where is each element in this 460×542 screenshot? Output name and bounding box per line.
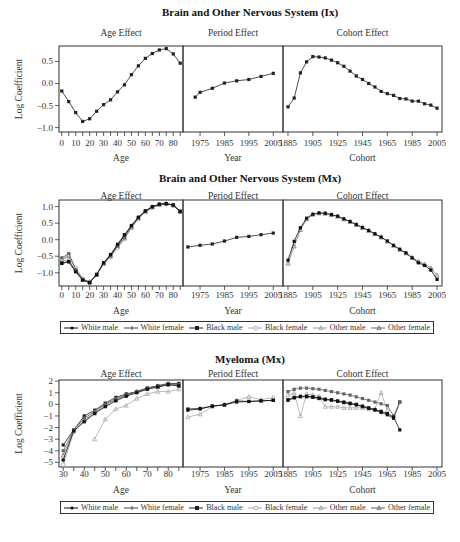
- x-tick-label: 2005: [428, 469, 447, 479]
- x-axis-label: Age: [113, 306, 129, 316]
- y-tick-label: 0.5: [42, 56, 54, 66]
- series-other-male: [93, 387, 181, 441]
- x-tick-label: 1995: [240, 290, 259, 300]
- y-tick-label: −1.0: [37, 268, 54, 278]
- legend-label: Black female: [265, 503, 307, 512]
- legend-label: White male: [81, 503, 118, 512]
- series-other-male: [186, 395, 275, 419]
- legend-item-other-female: Other female: [371, 503, 430, 512]
- x-tick-label: 80: [169, 138, 179, 148]
- legend-marker-icon: [124, 504, 138, 512]
- x-tick-label: 1965: [378, 138, 397, 148]
- x-tick-label: 1905: [304, 469, 323, 479]
- legend-label: White male: [81, 323, 118, 332]
- y-tick-label: −5: [43, 457, 53, 467]
- panel-age-effect: Age Effect304050607080Age: [59, 369, 183, 495]
- x-tick-label: 1985: [403, 469, 422, 479]
- x-tick-label: 30: [59, 469, 69, 479]
- x-tick-label: 60: [141, 138, 151, 148]
- x-axis-label: Cohort: [349, 485, 376, 495]
- legend-marker-icon: [248, 504, 262, 512]
- series-black-female: [60, 202, 182, 283]
- series-all: [286, 55, 438, 110]
- legend-marker-icon: [189, 504, 203, 512]
- y-tick-label: −1: [43, 411, 53, 421]
- x-axis-label: Age: [113, 485, 129, 495]
- chart-canvas: Brain and Other Nervous System (Ix)−1.0−…: [0, 0, 460, 542]
- legend-item-other-female: Other female: [371, 323, 430, 332]
- y-tick-label: 0: [49, 399, 54, 409]
- x-tick-label: 50: [127, 138, 137, 148]
- x-tick-label: 1925: [329, 469, 348, 479]
- x-tick-label: 1985: [215, 469, 234, 479]
- x-tick-label: 70: [155, 290, 165, 300]
- legend-label: Black male: [206, 503, 242, 512]
- x-tick-label: 60: [141, 290, 151, 300]
- x-tick-label: 80: [169, 290, 179, 300]
- legend-myeloma: White maleWhite femaleBlack maleBlack fe…: [60, 501, 434, 514]
- x-tick-label: 1985: [215, 138, 234, 148]
- x-tick-label: 1975: [191, 290, 210, 300]
- y-tick-label: −2: [43, 423, 53, 433]
- chart-title: Brain and Other Nervous System (Ix): [162, 6, 338, 19]
- legend-brain-mx: White maleWhite femaleBlack maleBlack fe…: [60, 321, 434, 334]
- series-other-female: [286, 211, 439, 277]
- chart-1: Brain and Other Nervous System (Ix)−1.0−…: [14, 6, 447, 163]
- y-tick-label: −3: [43, 434, 53, 444]
- y-tick-label: −0.5: [37, 251, 54, 261]
- y-tick-label: 0.0: [42, 235, 54, 245]
- panel-period-effect: Period Effect1975198519952005Year: [183, 369, 283, 495]
- legend-marker-icon: [189, 324, 203, 332]
- x-tick-label: 1885: [279, 290, 298, 300]
- x-tick-label: 1965: [378, 290, 397, 300]
- panel-cohort-effect: Cohort Effect188519051925194519651985200…: [279, 369, 447, 495]
- series-all: [60, 47, 182, 123]
- panel-cohort-effect: Cohort Effect188519051925194519651985200…: [279, 191, 447, 316]
- panel-cohort-effect: Cohort Effect188519051925194519651985200…: [279, 28, 447, 163]
- legend-item-other-male: Other male: [313, 503, 366, 512]
- legend-label: Other female: [388, 323, 430, 332]
- panel-subtitle: Period Effect: [208, 28, 259, 38]
- panel-subtitle: Age Effect: [100, 369, 142, 379]
- x-tick-label: 1885: [279, 138, 298, 148]
- x-tick-label: 1965: [378, 469, 397, 479]
- x-tick-label: 1945: [354, 138, 373, 148]
- panel-period-effect: Period Effect1975198519952005Year: [183, 191, 283, 316]
- legend-marker-icon: [313, 504, 327, 512]
- x-tick-label: 10: [71, 138, 81, 148]
- y-tick-label: 1.0: [42, 202, 54, 212]
- y-axis-label: Log Coefficient: [14, 393, 24, 454]
- series-all: [194, 72, 275, 99]
- x-tick-label: 40: [80, 469, 90, 479]
- legend-marker-icon: [64, 324, 78, 332]
- x-tick-label: 1885: [279, 469, 298, 479]
- legend-marker-icon: [124, 324, 138, 332]
- x-tick-label: 40: [113, 138, 123, 148]
- legend-item-white-male: White male: [64, 323, 118, 332]
- legend-label: Other female: [388, 503, 430, 512]
- panel-subtitle: Cohort Effect: [337, 28, 389, 38]
- legend-marker-icon: [313, 324, 327, 332]
- legend-label: Other male: [330, 503, 366, 512]
- x-tick-label: 1905: [304, 290, 323, 300]
- x-tick-label: 30: [99, 290, 109, 300]
- figure: Brain and Other Nervous System (Ix)−1.0−…: [0, 0, 460, 542]
- x-tick-label: 20: [85, 138, 95, 148]
- x-tick-label: 1945: [354, 290, 373, 300]
- y-tick-label: −0.5: [37, 101, 54, 111]
- x-tick-label: 1985: [403, 138, 422, 148]
- legend-label: White female: [141, 323, 184, 332]
- legend-label: Other male: [330, 323, 366, 332]
- legend-item-white-female: White female: [124, 503, 184, 512]
- x-tick-label: 30: [99, 138, 109, 148]
- series-other-female: [61, 382, 181, 457]
- y-tick-label: −1.0: [37, 123, 54, 133]
- x-tick-label: 1975: [191, 138, 210, 148]
- panel-subtitle: Age Effect: [100, 28, 142, 38]
- panel-age-effect: Age Effect01020304050607080Age: [59, 28, 183, 163]
- x-tick-label: 0: [60, 138, 65, 148]
- series-other-male: [286, 391, 389, 418]
- panel-subtitle: Period Effect: [208, 369, 259, 379]
- y-axis-label: Log Coefficient: [14, 213, 24, 274]
- legend-item-black-male: Black male: [189, 503, 242, 512]
